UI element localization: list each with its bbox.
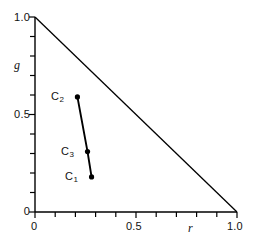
y-axis-title: g xyxy=(14,58,20,73)
data-label-c3: C3 xyxy=(61,145,73,157)
data-label-c1: C1 xyxy=(65,170,77,182)
data-point-c2[interactable] xyxy=(75,94,80,99)
y-tick-label-0: 0 xyxy=(2,205,30,217)
data-label-c3-main: C xyxy=(61,145,69,157)
chromaticity-boundary-line xyxy=(35,17,237,212)
chart-canvas xyxy=(0,0,257,242)
x-tick-label-1.0: 1.0 xyxy=(227,220,243,232)
x-tick-label-0.5: 0.5 xyxy=(126,220,142,232)
data-label-c2: C2 xyxy=(51,90,63,102)
data-label-c3-sub: 3 xyxy=(69,150,73,159)
data-label-c1-sub: 1 xyxy=(73,175,77,184)
data-label-c2-main: C xyxy=(51,90,59,102)
data-point-c3[interactable] xyxy=(85,149,90,154)
data-point-c1[interactable] xyxy=(89,174,94,179)
y-tick-label-0.5: 0.5 xyxy=(2,108,30,120)
data-series-line xyxy=(77,97,91,177)
y-tick-label-1.0: 1.0 xyxy=(2,11,30,23)
x-axis-ticks xyxy=(35,212,237,218)
chromaticity-chart-figure: 1.0 0.5 0 0 0.5 1.0 g r C2 C3 C1 xyxy=(0,0,257,242)
data-label-c2-sub: 2 xyxy=(59,95,63,104)
x-tick-label-0: 0 xyxy=(31,220,37,232)
data-label-c1-main: C xyxy=(65,170,73,182)
x-axis-title: r xyxy=(188,221,193,236)
